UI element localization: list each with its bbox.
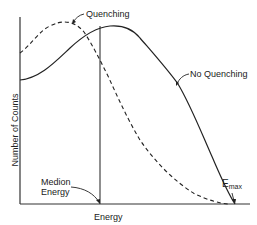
x-axis-label: Energy xyxy=(94,212,123,222)
emax-label: Emax xyxy=(222,178,242,190)
median-arrow xyxy=(71,187,99,202)
spectrum-chart xyxy=(0,0,257,225)
quenching-label: Quenching xyxy=(86,9,130,19)
median-energy-label-line2: Energy xyxy=(41,187,70,197)
median-energy-label-line1: Medion xyxy=(41,177,71,187)
no-quenching-arrow xyxy=(177,74,189,84)
median-arrowhead xyxy=(96,199,100,204)
no-quenching-label: No Quenching xyxy=(190,69,248,79)
y-axis-label: Number of Counts xyxy=(10,85,20,175)
